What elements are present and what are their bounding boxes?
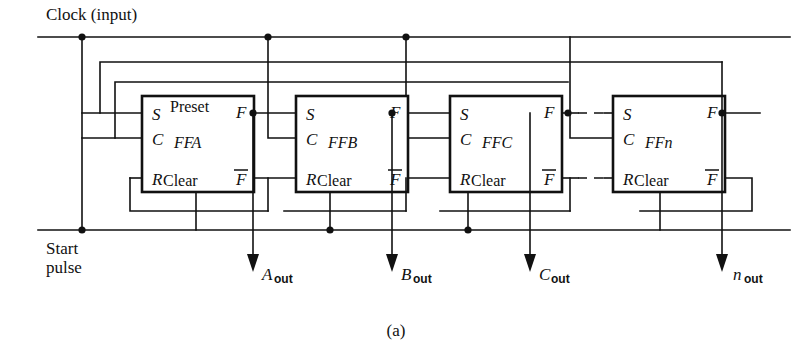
ffa-preset-label: Preset — [170, 98, 210, 115]
circuit-diagram-svg: S C R F F Preset FFA Clear S C R F F FFB — [0, 0, 812, 358]
ffn-port-f: F — [706, 103, 718, 122]
ffc-port-s: S — [460, 105, 469, 124]
clock-input-label: Clock (input) — [46, 5, 137, 24]
output-label-b: B out — [401, 265, 432, 286]
arrowhead-a-out — [247, 254, 259, 272]
ffa-port-fbar: F — [235, 170, 247, 189]
ffn-port-s: S — [623, 105, 632, 124]
ffa-name: FFA — [173, 134, 201, 151]
output-label-c: C out — [539, 265, 570, 286]
ffa-clear-label: Clear — [163, 172, 198, 189]
ffc-name: FFC — [481, 134, 513, 151]
ffb-port-r: R — [305, 170, 317, 189]
flipflop-ffc: S C R F F FFC Clear — [450, 96, 562, 192]
junction-dot-ffc-f — [564, 109, 571, 116]
ffc-port-fbar: F — [543, 170, 555, 189]
ffb-port-c: C — [306, 130, 318, 149]
ffn-port-c: C — [623, 130, 635, 149]
ffc-port-f: F — [543, 103, 555, 122]
ffa-port-c: C — [152, 130, 164, 149]
ffc-port-c: C — [460, 130, 472, 149]
flipflop-ffn: S C R F F FFn Clear — [613, 96, 725, 192]
output-label-n: n out — [733, 265, 763, 286]
output-a-main: A — [261, 265, 273, 284]
ffa-port-s: S — [152, 105, 161, 124]
output-b-main: B — [401, 265, 412, 284]
output-c-sub: out — [551, 272, 570, 286]
arrowhead-n-out — [716, 254, 728, 272]
junction-dot-start-a — [78, 226, 85, 233]
ffb-port-fbar: F — [389, 170, 401, 189]
circuit-figure: S C R F F Preset FFA Clear S C R F F FFB — [0, 0, 812, 358]
ffc-port-r: R — [459, 170, 471, 189]
flipflop-ffa: S C R F F Preset FFA Clear — [142, 96, 254, 192]
ffa-port-f: F — [235, 103, 247, 122]
ffc-clear-label: Clear — [471, 172, 506, 189]
output-c-main: C — [539, 265, 551, 284]
ffn-port-r: R — [622, 170, 634, 189]
arrowhead-c-out — [524, 254, 536, 272]
start-pulse-label-line2: pulse — [46, 258, 82, 277]
figure-caption: (a) — [387, 321, 406, 340]
start-pulse-label-line1: Start — [46, 239, 78, 258]
output-a-sub: out — [274, 272, 293, 286]
output-n-main: n — [733, 265, 742, 284]
ffn-port-fbar: F — [706, 170, 718, 189]
arrowhead-b-out — [386, 254, 398, 272]
output-label-a: A out — [261, 265, 293, 286]
start-pulse-bus — [38, 192, 790, 234]
output-b-sub: out — [413, 272, 432, 286]
output-n-sub: out — [744, 272, 763, 286]
ffa-port-r: R — [151, 170, 163, 189]
ffb-port-s: S — [306, 105, 315, 124]
ffn-name: FFn — [644, 134, 673, 151]
ffb-name: FFB — [327, 134, 358, 151]
ffn-clear-label: Clear — [634, 172, 669, 189]
ffb-clear-label: Clear — [317, 172, 352, 189]
